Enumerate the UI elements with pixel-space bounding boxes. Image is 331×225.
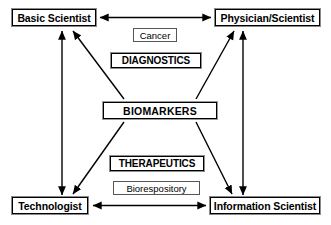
node-physician-scientist-label: Physician/Scientist [221,12,315,24]
node-cancer: Cancer [133,28,177,42]
node-biomarkers-label: BIOMARKERS [123,105,197,117]
node-technologist: Technologist [12,197,88,214]
node-biomarkers: BIOMARKERS [103,102,217,119]
node-cancer-label: Cancer [140,30,171,41]
biomarkers-diagram: Basic Scientist Physician/Scientist Tech… [0,0,331,225]
node-information-scientist: Information Scientist [210,197,320,214]
node-biorespository-label: Biorespository [126,183,186,194]
node-basic-scientist-label: Basic Scientist [17,12,90,24]
node-technologist-label: Technologist [18,200,81,212]
node-therapeutics: THERAPEUTICS [110,156,204,171]
node-basic-scientist: Basic Scientist [12,9,96,26]
node-diagnostics: DIAGNOSTICS [111,53,201,68]
node-diagnostics-label: DIAGNOSTICS [122,55,190,66]
node-biorespository: Biorespository [113,181,200,195]
node-physician-scientist: Physician/Scientist [215,9,320,26]
node-therapeutics-label: THERAPEUTICS [119,158,196,169]
connector-biomarkers-to-physician [196,31,234,99]
node-information-scientist-label: Information Scientist [214,200,316,212]
